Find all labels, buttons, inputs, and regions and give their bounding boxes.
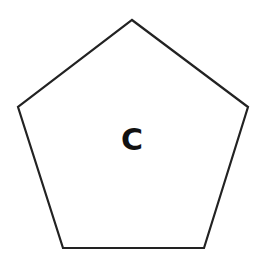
diagram-canvas: C [0, 0, 267, 255]
pentagon-label: C [121, 122, 143, 157]
